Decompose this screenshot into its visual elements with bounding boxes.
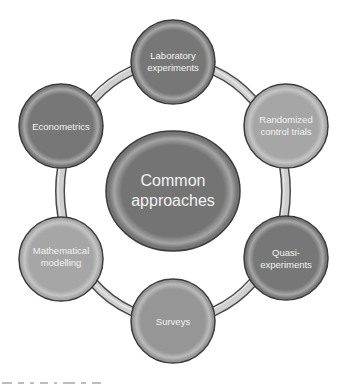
node-surveys: Surveys [131, 279, 215, 363]
node-label-line1: Quasi- [272, 247, 300, 258]
node-quasi-experiments: Quasi- experiments [244, 216, 328, 300]
node-label-line1: Laboratory [150, 50, 196, 61]
center-node: Common approaches [106, 131, 240, 251]
node-econometrics: Econometrics [19, 84, 103, 168]
node-label-line2: control trials [260, 126, 311, 137]
node-label-line2: modelling [41, 257, 82, 268]
node-label-line2: experiments [260, 259, 312, 270]
node-mathematical-modelling: Mathematical modelling [19, 217, 103, 301]
center-label-line1: Common [141, 172, 206, 189]
node-label-line2: experiments [147, 62, 199, 73]
node-laboratory-experiments: Laboratory experiments [131, 20, 215, 104]
cycle-diagram: Common approaches Laboratory experiments… [0, 0, 346, 386]
node-randomized-control-trials: Randomized control trials [244, 84, 328, 168]
node-label: Econometrics [32, 121, 90, 132]
node-label-line1: Mathematical [33, 245, 90, 256]
center-label-line2: approaches [131, 192, 215, 209]
clipped-caption-line [2, 382, 162, 386]
node-label-line1: Randomized [259, 114, 312, 125]
node-label: Surveys [156, 316, 191, 327]
